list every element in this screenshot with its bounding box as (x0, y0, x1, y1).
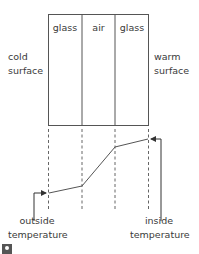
outside-temperature-line1: outside (8, 214, 66, 228)
pane-label-air: air (82, 22, 115, 33)
inside-temperature-arrow (151, 139, 161, 221)
guide-lines (49, 129, 149, 210)
cold-surface-label: cold surface (8, 50, 43, 78)
inside-temperature-line2: temperature (130, 228, 188, 242)
inside-temperature-label: inside temperature (130, 214, 188, 242)
warm-surface-line2: surface (154, 64, 189, 78)
cold-surface-line1: cold (8, 50, 43, 64)
warm-surface-label: warm surface (154, 50, 189, 78)
temperature-profile-line (49, 139, 148, 193)
image-badge-icon[interactable] (2, 244, 12, 254)
inside-temperature-line1: inside (130, 214, 188, 228)
cold-surface-line2: surface (8, 64, 43, 78)
outside-temperature-label: outside temperature (8, 214, 66, 242)
warm-surface-line1: warm (154, 50, 189, 64)
outside-temperature-line2: temperature (8, 228, 66, 242)
pane-label-glass-inner: glass (115, 22, 149, 33)
pane-label-glass-outer: glass (48, 22, 82, 33)
